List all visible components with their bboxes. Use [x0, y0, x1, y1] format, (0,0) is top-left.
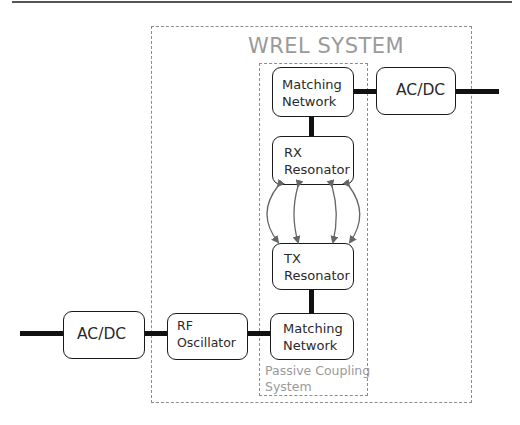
coupling-arrow-4: [349, 186, 360, 242]
coupling-arrow-3: [332, 186, 336, 242]
coupling-arrow-1: [267, 186, 278, 242]
wireless-coupling-arrows: [0, 0, 520, 425]
coupling-arrow-2: [294, 186, 298, 242]
